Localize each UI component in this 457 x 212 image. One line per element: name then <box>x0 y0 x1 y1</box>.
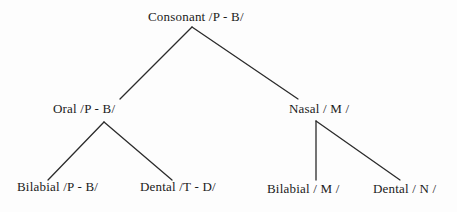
consonant-tree-diagram: Consonant /P - B/ Oral /P - B/ Nasal / M… <box>0 0 457 212</box>
edge-oral-to-dental <box>104 122 172 180</box>
edge-oral-to-bilabial <box>48 122 104 180</box>
edge-root-to-nasal <box>192 27 298 99</box>
edge-nasal-to-dental <box>316 121 400 180</box>
node-oral-dental: Dental /T - D/ <box>140 179 216 194</box>
node-consonant-root: Consonant /P - B/ <box>148 9 244 24</box>
node-nasal-dental: Dental / N / <box>373 181 436 196</box>
node-nasal: Nasal / M / <box>289 101 349 116</box>
node-nasal-bilabial: Bilabial / M / <box>267 181 340 196</box>
node-oral: Oral /P - B/ <box>53 101 115 116</box>
edge-root-to-oral <box>120 27 192 99</box>
node-oral-bilabial: Bilabial /P - B/ <box>17 179 98 194</box>
